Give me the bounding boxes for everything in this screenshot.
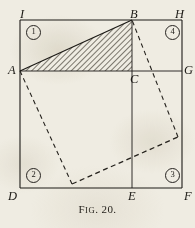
caption-number: . 20.	[95, 203, 116, 215]
label-E: E	[128, 190, 136, 203]
label-D: D	[8, 190, 17, 203]
figure-caption: FIG. 20.	[0, 203, 195, 215]
label-G: G	[184, 64, 193, 77]
label-F: F	[184, 190, 192, 203]
dashed-line-ap	[20, 71, 72, 184]
quadrant-number-4: 4	[165, 25, 180, 40]
figure-page: I B H A C G D E F 1 4 2 3 FIG. 20.	[0, 0, 195, 228]
quadrant-number-3: 3	[165, 168, 180, 183]
label-B: B	[130, 8, 138, 21]
dashed-line-pq	[72, 137, 178, 184]
quadrant-number-1: 1	[26, 25, 41, 40]
label-I: I	[20, 8, 24, 21]
quadrant-number-2: 2	[26, 168, 41, 183]
caption-smallcaps: IG	[85, 205, 95, 215]
label-H: H	[175, 8, 184, 21]
label-C: C	[130, 73, 138, 86]
label-A: A	[8, 64, 16, 77]
